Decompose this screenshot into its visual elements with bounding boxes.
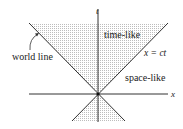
space-like-label: space-like [125,72,166,83]
time-like-label: time-like [104,29,141,40]
light-cone-diagram: t x time-like space-like x = ct world li… [0,0,183,129]
world-line-label: world line [12,51,53,62]
origin-point [96,92,99,95]
t-axis-label: t [96,6,99,16]
world-line-arrow [30,34,38,50]
cone-line-label: x = ct [143,48,167,58]
x-axis-label: x [170,89,175,99]
